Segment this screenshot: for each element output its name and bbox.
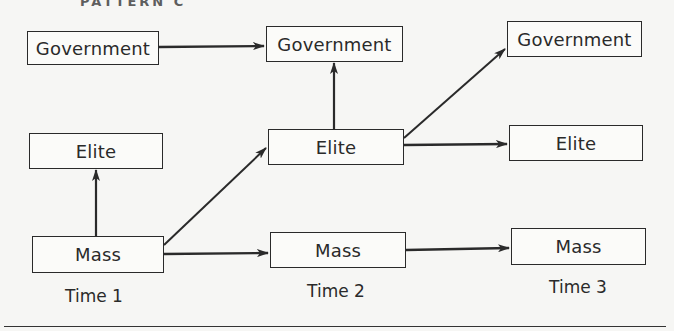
node-elite-time3: Elite [509,125,643,161]
node-mass-time3: Mass [511,228,646,265]
node-mass-time2: Mass [270,232,406,268]
node-government-time3: Government [507,21,642,57]
arrow-elite2-elite3 [404,144,507,145]
time-label-2: Time 2 [266,281,406,301]
arrow-elite2-gov3 [404,49,505,138]
node-elite-time1: Elite [29,133,163,169]
node-mass-time1: Mass [32,236,164,273]
node-elite-time2: Elite [268,129,404,165]
node-government-time2: Government [266,26,403,62]
arrow-mass2-mass3 [406,248,509,250]
node-government-time1: Government [27,31,159,65]
arrow-gov1-gov2 [159,46,264,47]
arrow-mass1-mass2 [164,253,268,254]
arrow-mass1-elite2 [164,148,266,245]
time-label-1: Time 1 [24,286,164,306]
time-label-3: Time 3 [508,277,648,297]
bottom-rule [4,326,666,327]
